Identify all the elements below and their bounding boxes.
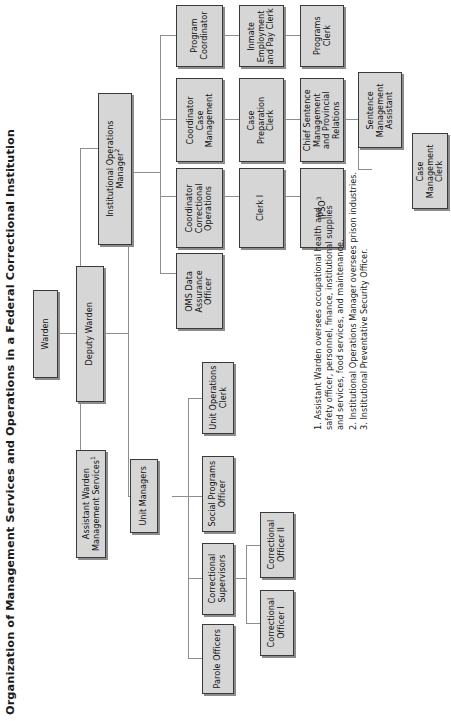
node-social-programs-officer[interactable]: Social Programs Officer (202, 456, 234, 532)
node-coordinator-case-management-label: Coordinator Case Management (185, 93, 214, 147)
connector (172, 496, 188, 497)
connector (188, 496, 202, 497)
node-chief-sentence-management[interactable]: Chief Sentence Management and Provincial… (300, 78, 344, 162)
node-sentence-management-assistant[interactable]: Sentence Management Assistant (358, 72, 402, 148)
page-title: Organization of Management Services and … (0, 0, 22, 721)
node-unit-managers[interactable]: Unit Managers (130, 459, 158, 533)
node-case-preparation-clerk[interactable]: Case Preparation Clerk (239, 78, 284, 162)
node-unit-managers-label: Unit Managers (139, 466, 149, 525)
connector (246, 623, 260, 624)
node-clerk-i-label: Clerk I (257, 195, 267, 221)
connector (128, 172, 160, 173)
node-programs-clerk[interactable]: Programs Clerk (300, 5, 344, 67)
node-social-programs-officer-label: Social Programs Officer (208, 461, 227, 527)
node-parole-officers-label: Parole Officers (213, 629, 223, 688)
node-correctional-officer-ii[interactable]: Correctional Officer II (260, 512, 294, 578)
node-assistant-warden[interactable]: Assistant Warden Management Services1 (76, 450, 106, 558)
node-coordinator-correctional-operations-label: Coordinator Correctional Operations (185, 183, 214, 233)
connector (160, 35, 161, 273)
node-warden-label: Warden (41, 318, 51, 349)
connector (188, 398, 189, 658)
node-coordinator-correctional-operations[interactable]: Coordinator Correctional Operations (176, 168, 223, 248)
node-case-preparation-clerk-label: Case Preparation Clerk (247, 96, 276, 143)
node-case-management-clerk[interactable]: Case Management Clerk (412, 133, 448, 209)
footnote-2: 2. Institutional Operations Manager over… (348, 172, 359, 430)
footnote-1-line-3: and services, food services, and mainten… (335, 239, 346, 430)
connector (223, 196, 239, 197)
node-correctional-officer-ii-label: Correctional Officer II (267, 520, 286, 570)
footnote-1-line-2: safety officer, personnel, finance, inst… (324, 205, 335, 430)
node-case-management-clerk-label: Case Management Clerk (416, 144, 445, 198)
node-correctional-supervisors-label: Correctional Supervisors (208, 554, 227, 604)
connector (188, 578, 202, 579)
node-correctional-officer-i[interactable]: Correctional Officer I (260, 590, 294, 656)
connector (188, 398, 202, 399)
connector (284, 119, 300, 120)
node-warden[interactable]: Warden (33, 290, 58, 378)
node-oms-data-assurance-officer[interactable]: OMS Data Assurance Officer (176, 253, 223, 329)
node-unit-operations-clerk[interactable]: Unit Operations Clerk (202, 362, 234, 434)
connector (358, 169, 372, 170)
connector (284, 196, 300, 197)
connector (160, 273, 176, 274)
footnote-1-line-1: 1. Assistant Warden oversees occupationa… (313, 207, 324, 430)
connector (246, 545, 260, 546)
connector (232, 578, 246, 579)
footnote-ref-2: 2 (112, 149, 119, 153)
node-coordinator-case-management[interactable]: Coordinator Case Management (176, 78, 223, 162)
connector (188, 658, 202, 659)
node-clerk-i[interactable]: Clerk I (239, 168, 284, 248)
connector (104, 333, 128, 334)
connector (344, 119, 358, 120)
node-correctional-officer-i-label: Correctional Officer I (267, 598, 286, 648)
node-deputy-warden-label: Deputy Warden (85, 302, 95, 366)
connector (128, 333, 129, 496)
node-programs-clerk-label: Programs Clerk (312, 17, 331, 56)
footnote-3: 3. Institutional Preventative Security O… (359, 249, 370, 430)
node-sentence-management-assistant-label: Sentence Management Assistant (366, 83, 395, 137)
footnote-ref-3: 3 (315, 197, 322, 201)
node-correctional-supervisors[interactable]: Correctional Supervisors (202, 543, 234, 615)
connector (223, 119, 239, 120)
connector (246, 545, 247, 623)
footnote-ref-1: 1 (88, 457, 95, 461)
node-institutional-operations-manager[interactable]: Institutional Operations Manager2 (98, 93, 132, 245)
node-unit-operations-clerk-label: Unit Operations Clerk (208, 366, 227, 430)
node-parole-officers[interactable]: Parole Officers (202, 624, 234, 694)
connector (160, 35, 176, 36)
connector (160, 119, 176, 120)
node-assistant-warden-label: Assistant Warden Management Services1 (81, 457, 100, 552)
node-iom-label: Institutional Operations Manager2 (105, 121, 124, 217)
connector (284, 35, 300, 36)
node-inmate-employment-pay-clerk[interactable]: Inmate Employment and Pay Clerk (239, 5, 284, 67)
node-chief-sentence-management-label: Chief Sentence Management and Provincial… (303, 89, 341, 151)
node-program-coordinator[interactable]: Program Coordinator (176, 5, 223, 67)
connector (160, 196, 176, 197)
node-program-coordinator-label: Program Coordinator (190, 12, 209, 60)
connector (223, 35, 239, 36)
node-deputy-warden[interactable]: Deputy Warden (76, 266, 104, 402)
node-inmate-employment-label: Inmate Employment and Pay Clerk (247, 8, 276, 64)
node-oms-label: OMS Data Assurance Officer (185, 270, 214, 312)
